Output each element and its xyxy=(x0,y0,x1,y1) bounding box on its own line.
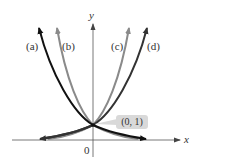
curve-c-label: (c) xyxy=(111,41,123,52)
intersection-callout: (0, 1) xyxy=(116,115,148,129)
curve-a-label: (a) xyxy=(26,41,38,52)
exponential-graphs-figure: y x 0 (a) (b) (c) (d) (0, 1) xyxy=(0,0,246,167)
curve-d-label: (d) xyxy=(147,41,160,52)
x-axis-label: x xyxy=(184,134,189,145)
y-axis-label: y xyxy=(89,10,94,21)
graph-canvas xyxy=(0,0,246,167)
intersection-point xyxy=(91,123,95,127)
origin-label: 0 xyxy=(84,145,90,156)
curve-b-label: (b) xyxy=(62,41,75,52)
